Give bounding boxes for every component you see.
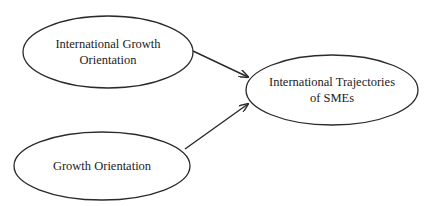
node-label-line-2: Orientation (55, 52, 160, 68)
node-label-line-1: International Trajectories (269, 74, 395, 90)
node-label-line-1: Growth Orientation (53, 158, 151, 174)
node-label-line-1: International Growth (55, 36, 160, 52)
edge-go-to-its-arrow (185, 104, 248, 149)
node-international-trajectories-of-smes: International Trajectories of SMEs (246, 55, 418, 125)
node-international-growth-orientation: International Growth Orientation (23, 16, 193, 88)
edge-igo-to-its-arrow (193, 51, 248, 77)
node-growth-orientation: Growth Orientation (14, 132, 190, 200)
diagram-canvas: International Growth Orientation Growth … (0, 0, 434, 206)
node-label-line-2: of SMEs (269, 90, 395, 106)
